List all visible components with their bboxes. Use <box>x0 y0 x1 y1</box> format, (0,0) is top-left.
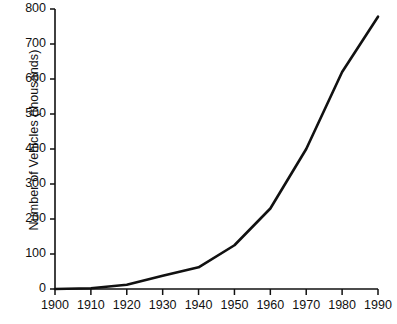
x-tick-label: 1910 <box>71 298 111 312</box>
x-tick-label: 1990 <box>358 298 397 312</box>
y-tick-label: 100 <box>25 246 46 260</box>
y-tick-label: 600 <box>25 71 46 85</box>
y-tick-label: 800 <box>25 1 46 15</box>
x-tick-label: 1930 <box>143 298 183 312</box>
x-tick-label: 1900 <box>35 298 75 312</box>
data-series-line <box>55 17 378 289</box>
x-axis-ticks <box>55 289 378 295</box>
y-tick-label: 700 <box>25 36 46 50</box>
x-tick-label: 1960 <box>250 298 290 312</box>
x-tick-label: 1920 <box>107 298 147 312</box>
y-tick-label: 400 <box>25 141 46 155</box>
y-tick-label: 500 <box>25 106 46 120</box>
y-tick-label: 0 <box>39 281 46 295</box>
y-tick-label: 300 <box>25 176 46 190</box>
axes <box>55 9 378 289</box>
x-tick-label: 1970 <box>286 298 326 312</box>
x-tick-label: 1980 <box>322 298 362 312</box>
x-tick-label: 1950 <box>214 298 254 312</box>
x-tick-label: 1940 <box>179 298 219 312</box>
y-tick-label: 200 <box>25 211 46 225</box>
